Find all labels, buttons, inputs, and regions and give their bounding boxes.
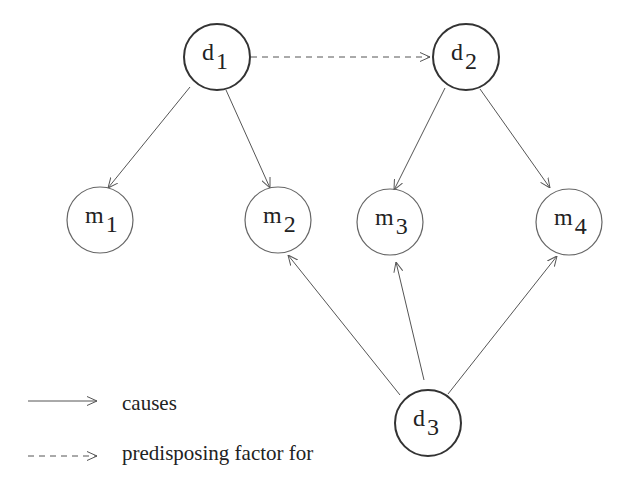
- node-label: m3: [375, 204, 408, 239]
- causal-network-diagram: d1d2d3m1m2m3m4 causes predisposing facto…: [0, 0, 630, 480]
- legend-causes-label: causes: [122, 391, 177, 415]
- edge-d2-to-m4: [480, 89, 550, 188]
- node-label: m1: [85, 202, 118, 237]
- node-m3: m3: [357, 189, 423, 255]
- edge-d2-to-m3: [394, 88, 445, 190]
- node-label: m2: [263, 202, 296, 237]
- node-m2: m2: [245, 187, 311, 253]
- edge-d3-to-m2: [288, 255, 400, 395]
- node-label: d2: [451, 39, 477, 74]
- node-label: d3: [413, 405, 439, 440]
- node-d3: d3: [395, 390, 461, 456]
- legend-predisposing-label: predisposing factor for: [122, 441, 313, 465]
- legend: causes predisposing factor for: [28, 391, 313, 465]
- node-m1: m1: [67, 187, 133, 253]
- edge-d3-to-m4: [448, 256, 557, 394]
- edge-d3-to-m3: [396, 262, 424, 380]
- node-m4: m4: [536, 189, 602, 255]
- edge-d1-to-m1: [108, 87, 190, 188]
- edge-d1-to-m2: [226, 90, 270, 188]
- node-label: m4: [554, 204, 587, 239]
- node-d1: d1: [184, 24, 250, 90]
- node-label: d1: [202, 39, 228, 74]
- edges-layer: [108, 57, 557, 395]
- node-d2: d2: [433, 24, 499, 90]
